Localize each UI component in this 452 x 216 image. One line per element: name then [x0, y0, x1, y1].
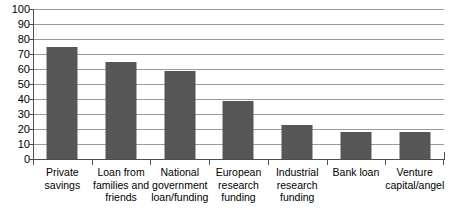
- bar[interactable]: [340, 132, 371, 159]
- x-axis-category-labels: Private savingsLoan from families and fr…: [33, 166, 444, 212]
- y-axis-tick: [29, 144, 33, 145]
- y-axis-tick: [29, 99, 33, 100]
- y-axis-tick: [29, 9, 33, 10]
- x-axis-ticks: [33, 160, 444, 165]
- x-axis-category-label: Loan from families and friends: [92, 166, 151, 204]
- y-axis-tick-label: 50: [0, 79, 30, 90]
- y-axis-tick: [29, 114, 33, 115]
- bar-slot: [385, 9, 444, 159]
- bar[interactable]: [223, 101, 254, 160]
- y-axis-tick: [29, 84, 33, 85]
- bar-series: [33, 9, 444, 159]
- x-axis-tick: [443, 160, 444, 165]
- x-axis-category-label: Bank loan: [327, 166, 386, 179]
- y-axis-tick-label: 0: [0, 154, 30, 165]
- bar[interactable]: [282, 125, 313, 160]
- y-axis-tick-label: 60: [0, 64, 30, 75]
- x-axis-category-label: National government loan/funding: [150, 166, 209, 204]
- bar-slot: [268, 9, 327, 159]
- y-axis-tick-label: 40: [0, 94, 30, 105]
- bar[interactable]: [399, 132, 430, 159]
- y-axis-tick-labels: 1009080706050403020100: [0, 0, 30, 170]
- bar[interactable]: [164, 71, 195, 160]
- x-axis-tick: [268, 160, 269, 165]
- x-axis-tick: [385, 160, 386, 165]
- y-axis-tick-label: 80: [0, 34, 30, 45]
- x-axis-tick: [327, 160, 328, 165]
- bar[interactable]: [47, 47, 78, 160]
- bar-chart: 1009080706050403020100 Private savingsLo…: [0, 0, 452, 216]
- x-axis-category-label: European research funding: [209, 166, 268, 204]
- x-axis-tick: [92, 160, 93, 165]
- x-axis-category-label: Industrial research funding: [268, 166, 327, 204]
- y-axis-tick-label: 30: [0, 109, 30, 120]
- y-axis-tick: [29, 159, 33, 160]
- x-axis-tick: [209, 160, 210, 165]
- x-axis-category-label: Private savings: [33, 166, 92, 191]
- y-axis-tick-label: 90: [0, 19, 30, 30]
- y-axis-tick: [29, 69, 33, 70]
- y-axis-tick: [29, 39, 33, 40]
- x-axis-tick: [33, 160, 34, 165]
- bar-slot: [33, 9, 92, 159]
- y-axis-tick: [29, 24, 33, 25]
- y-axis-tick: [29, 129, 33, 130]
- bar-slot: [327, 9, 386, 159]
- y-axis-tick-label: 100: [0, 4, 30, 15]
- bar[interactable]: [106, 62, 137, 160]
- y-axis-tick: [29, 54, 33, 55]
- y-axis-tick-label: 10: [0, 139, 30, 150]
- y-axis-tick-label: 70: [0, 49, 30, 60]
- x-axis-tick: [150, 160, 151, 165]
- bar-slot: [209, 9, 268, 159]
- bar-slot: [92, 9, 151, 159]
- bar-slot: [150, 9, 209, 159]
- y-axis-tick-label: 20: [0, 124, 30, 135]
- x-axis-right-cap: [444, 152, 445, 160]
- x-axis-category-label: Venture capital/angel: [385, 166, 444, 191]
